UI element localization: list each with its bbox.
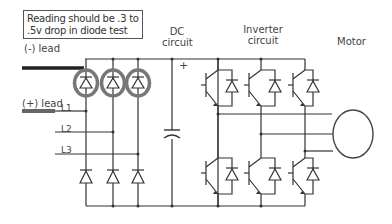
- igbt-upper-2: [244, 59, 281, 106]
- capacitor-plate-bottom: [164, 135, 180, 138]
- upper-diode-1: [80, 77, 92, 88]
- igbt-lower-3: [288, 158, 319, 206]
- motor-symbol: [333, 110, 373, 158]
- lower-diode-3: [132, 170, 144, 183]
- circuit-schematic: [0, 0, 392, 224]
- lower-diode-1: [80, 170, 92, 183]
- igbt-upper-3: [288, 59, 319, 106]
- upper-diode-2: [107, 77, 119, 88]
- lower-diode-2: [107, 170, 119, 183]
- igbt-lower-2: [244, 158, 281, 206]
- upper-diode-3: [132, 77, 144, 88]
- igbt-lower-1: [201, 158, 238, 206]
- igbt-upper-1: [201, 59, 238, 106]
